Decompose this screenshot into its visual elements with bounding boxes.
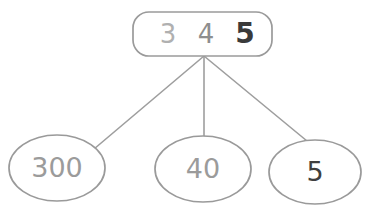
connector-to-ones [204,56,307,141]
parent-node-345[interactable]: 3 4 5 [133,12,272,56]
place-value-diagram: 3 4 5 300 40 5 [0,0,367,207]
parent-digit-ones: 5 [235,17,254,50]
connector-group [94,56,307,149]
child-node-tens[interactable]: 40 [155,136,251,202]
parent-digit-hundreds: 3 [160,19,177,49]
parent-digit-tens: 4 [198,19,215,49]
ones-label: 5 [306,156,323,187]
child-node-hundreds[interactable]: 300 [9,135,105,201]
connector-to-hundreds [94,56,204,149]
hundreds-label: 300 [31,152,83,183]
tens-label: 40 [186,153,220,184]
child-node-ones[interactable]: 5 [269,140,361,204]
